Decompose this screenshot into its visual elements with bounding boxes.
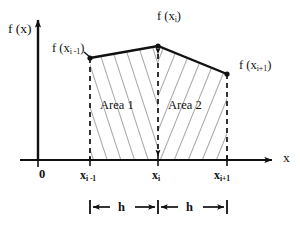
dimension-label-h-right: h [186, 201, 193, 214]
leader-line-left-label [84, 52, 91, 58]
tick-sub-left: i -1 [86, 174, 96, 183]
origin-label: 0 [39, 168, 45, 181]
y-axis-label: f (x) [8, 22, 32, 36]
fn-suffix-right: ) [267, 58, 271, 72]
fn-prefix-left: f (x [52, 41, 70, 55]
area-2-label: Area 2 [168, 99, 202, 112]
fn-sub-right: i+1 [257, 64, 268, 73]
curve-point-peak [155, 43, 160, 48]
tick-sub-right: i+1 [220, 174, 230, 183]
tick-label-x-i-plus-1: xi+1 [214, 169, 230, 183]
tick-label-x-i-minus-1: xi -1 [80, 169, 96, 183]
tick-sub-middle: i [158, 174, 160, 183]
fn-sub-left: i -1 [70, 47, 81, 56]
fn-prefix-peak: f (x [157, 9, 175, 23]
function-label-f-x-i: f (xi) [157, 10, 181, 24]
function-label-f-x-i-minus-1: f (xi -1) [52, 42, 84, 56]
fn-suffix-left: ) [80, 41, 84, 55]
tick-label-x-i: xi [152, 169, 160, 183]
curve-point-right [224, 71, 229, 76]
area-1-label: Area 1 [100, 99, 134, 112]
function-label-f-x-i-plus-1: f (xi+1) [239, 59, 271, 73]
dimension-bar-group [90, 200, 227, 214]
x-axis-label: x [283, 151, 290, 165]
fn-prefix-right: f (x [239, 58, 257, 72]
diagram-svg [0, 0, 300, 229]
dimension-label-h-left: h [118, 201, 125, 214]
figure-canvas: f (x) x 0 f (xi -1) f (xi) f (xi+1) xi -… [0, 0, 300, 229]
fn-suffix-peak: ) [177, 9, 181, 23]
